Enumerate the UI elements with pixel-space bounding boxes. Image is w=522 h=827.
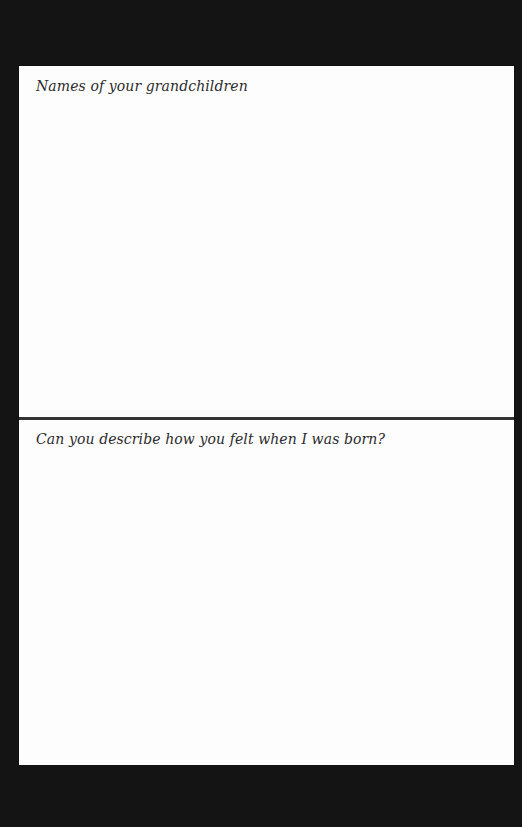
prompt-section-grandchildren: Names of your grandchildren [19, 66, 514, 417]
answer-writing-area [19, 106, 514, 417]
prompt-heading: Names of your grandchildren [36, 78, 248, 94]
answer-writing-area [19, 460, 514, 765]
prompt-heading: Can you describe how you felt when I was… [36, 431, 385, 447]
prompt-section-birth-feelings: Can you describe how you felt when I was… [19, 420, 514, 765]
journal-page: Names of your grandchildren Can you desc… [19, 66, 514, 765]
